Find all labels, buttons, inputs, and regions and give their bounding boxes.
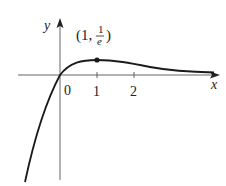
point-label-den: e	[97, 35, 102, 47]
x-axis-label: x	[210, 77, 218, 92]
tick-label-1: 1	[93, 84, 100, 99]
max-point	[94, 57, 99, 62]
graph: y x 0 1 2 (1, 1 e )	[0, 0, 226, 186]
point-label-left: (1,	[76, 27, 92, 44]
point-label-right: )	[106, 27, 111, 44]
function-curve	[25, 60, 214, 182]
tick-label-2: 2	[130, 84, 137, 99]
y-axis-label: y	[42, 18, 51, 33]
tick-label-0: 0	[64, 83, 71, 98]
point-label-num: 1	[98, 23, 104, 35]
